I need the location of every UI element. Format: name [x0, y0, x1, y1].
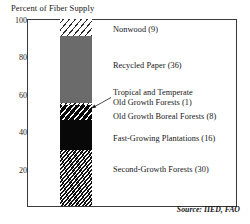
- y-tick-label-40: 40: [19, 128, 27, 137]
- y-tick-label-20: 20: [19, 165, 27, 174]
- series-label-recycled-paper: Recycled Paper (36): [113, 61, 182, 71]
- y-tick-label-80: 80: [19, 53, 27, 62]
- series-label-nonwood: Nonwood (9): [113, 25, 158, 35]
- bar-segment-old-growth-boreal: [60, 105, 92, 120]
- series-label-old-growth-boreal: Old Growth Boreal Forests (8): [113, 112, 216, 122]
- source-note: Source: IIED, FAO: [177, 205, 240, 214]
- series-label-second-growth-forests: Second-Growth Forests (30): [113, 165, 209, 175]
- y-tick-label-100: 100: [15, 16, 27, 25]
- bar-segment-nonwood: [60, 19, 92, 36]
- y-axis: 100 80 60 40 20: [0, 0, 27, 224]
- bar-segment-fast-growing-plantations: [60, 120, 92, 150]
- series-label-tropical-temperate-old-growth: Tropical and Temperate Old Growth Forest…: [113, 88, 193, 107]
- bar-segment-recycled-paper: [60, 36, 92, 103]
- bar-segment-second-growth-forests: [60, 150, 92, 206]
- stacked-bar: [60, 19, 92, 206]
- series-label-fast-growing-plantations: Fast-Growing Plantations (16): [113, 134, 215, 144]
- y-tick-label-60: 60: [19, 90, 27, 99]
- chart-figure: Percent of Fiber Supply 100 80 60 40 20 …: [0, 0, 250, 224]
